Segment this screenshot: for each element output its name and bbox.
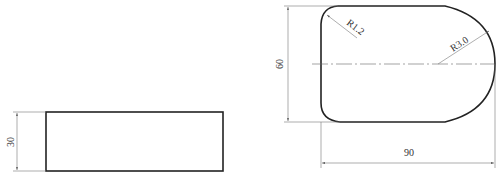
side-view: 30 bbox=[5, 112, 223, 171]
technical-drawing: 30 60 90 R1.2 R3.0 bbox=[0, 0, 499, 183]
side-view-outline bbox=[46, 112, 223, 171]
dimension-label-60: 60 bbox=[274, 59, 285, 69]
dimension-label-90: 90 bbox=[404, 147, 414, 158]
radius-label-r1-2: R1.2 bbox=[345, 17, 367, 37]
top-view: 60 90 R1.2 R3.0 bbox=[274, 6, 495, 168]
radius-label-r3-0: R3.0 bbox=[448, 34, 470, 54]
dimension-label-30: 30 bbox=[5, 137, 16, 147]
